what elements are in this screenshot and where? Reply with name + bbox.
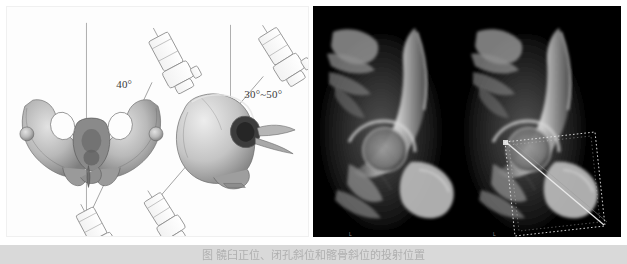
figure-caption-bar: 图 髐臼正位、闭孔斜位和髂骨斜位的投射位置 [0,245,627,264]
radiograph-side-marker-right: L [493,231,496,237]
angle-label-ap: 40° [116,78,132,90]
positioning-schematic-panel: 40° 30°~50° [6,6,309,237]
angle-label-oblique: 30°~50° [244,88,282,100]
radiograph-panel: L L [313,6,621,237]
figure-root: 40° 30°~50° [0,0,627,264]
figure-panels: 40° 30°~50° [0,0,627,240]
radiograph-side-marker-left: L [349,231,352,237]
positioning-schematic-svg: 40° 30°~50° [7,7,308,236]
radiograph-svg: L L [313,6,621,237]
figure-caption-text: 图 髐臼正位、闭孔斜位和髂骨斜位的投射位置 [0,249,627,262]
